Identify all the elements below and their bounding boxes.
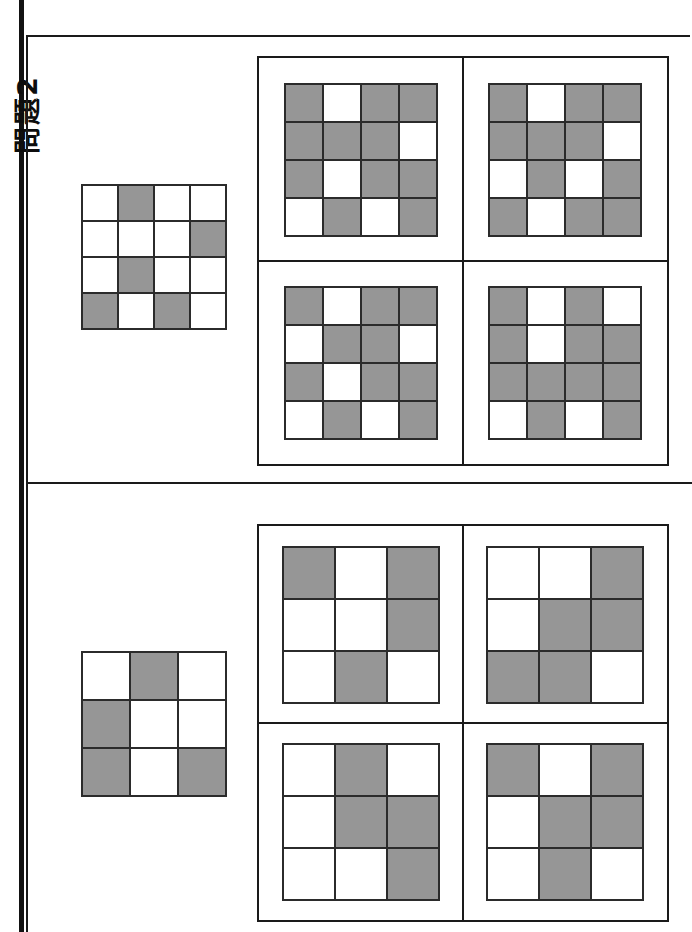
option-top-d-cell-r1c2 [528, 288, 564, 324]
reference-grid-bottom-cell-r1c1 [83, 653, 129, 699]
reference-grid-top-cell-r1c4 [191, 186, 225, 220]
option-bottom-d-cell-r3c1 [488, 849, 538, 899]
reference-grid-top-cell-r1c1 [83, 186, 117, 220]
option-bottom-a-cell-r2c1 [284, 600, 334, 650]
option-top-d[interactable] [488, 286, 642, 440]
option-top-d-cell-r3c4 [604, 364, 640, 400]
option-top-c-cell-r1c2 [324, 288, 360, 324]
option-top-c-cell[interactable] [258, 260, 464, 465]
reference-grid-top [81, 184, 227, 330]
option-top-a-cell-r4c1 [286, 199, 322, 235]
option-bottom-b-cell-r2c1 [488, 600, 538, 650]
reference-grid-top-cell-r2c1 [83, 222, 117, 256]
option-bottom-a-cell-r1c2 [336, 548, 386, 598]
reference-grid-top-cell-r1c3 [155, 186, 189, 220]
option-top-b-cell-r4c2 [528, 199, 564, 235]
option-bottom-c-cell-r3c3 [388, 849, 438, 899]
option-bottom-c-cell[interactable] [258, 722, 464, 921]
option-top-b-cell-r4c1 [490, 199, 526, 235]
option-top-c-cell-r1c1 [286, 288, 322, 324]
option-top-b-cell-r1c1 [490, 85, 526, 121]
option-top-a-cell-r1c1 [286, 85, 322, 121]
option-bottom-b[interactable] [486, 546, 644, 704]
reference-grid-top-cell-r1c2 [119, 186, 153, 220]
option-top-a-cell-r4c4 [400, 199, 436, 235]
option-top-b-cell-r3c3 [566, 161, 602, 197]
option-bottom-c-cell-r2c2 [336, 797, 386, 847]
option-top-c-cell-r4c1 [286, 402, 322, 438]
option-top-c-cell-r3c2 [324, 364, 360, 400]
option-bottom-b-cell-r2c3 [592, 600, 642, 650]
option-top-a-cell-r2c4 [400, 123, 436, 159]
option-top-d-cell-r4c1 [490, 402, 526, 438]
option-top-a-cell-r3c2 [324, 161, 360, 197]
option-top-b-cell-r4c4 [604, 199, 640, 235]
option-top-d-cell-r1c3 [566, 288, 602, 324]
option-top-c-cell-r1c3 [362, 288, 398, 324]
option-bottom-d-cell[interactable] [462, 722, 668, 921]
option-top-c-cell-r2c4 [400, 326, 436, 362]
option-bottom-b-cell-r3c2 [540, 652, 590, 702]
option-bottom-d-cell-r2c1 [488, 797, 538, 847]
option-bottom-a-cell-r2c2 [336, 600, 386, 650]
option-top-b-cell-r3c2 [528, 161, 564, 197]
option-top-d-cell[interactable] [462, 260, 668, 465]
option-bottom-d-cell-r3c3 [592, 849, 642, 899]
option-top-d-cell-r2c4 [604, 326, 640, 362]
option-top-a-cell-r1c4 [400, 85, 436, 121]
option-top-c-cell-r2c3 [362, 326, 398, 362]
option-bottom-a-cell-r1c1 [284, 548, 334, 598]
option-top-b-cell[interactable] [462, 57, 668, 262]
option-bottom-c-cell-r3c1 [284, 849, 334, 899]
option-top-c-cell-r4c2 [324, 402, 360, 438]
option-top-d-cell-r3c1 [490, 364, 526, 400]
option-bottom-b-cell-r3c3 [592, 652, 642, 702]
option-bottom-b-cell-r1c2 [540, 548, 590, 598]
option-bottom-c-cell-r2c3 [388, 797, 438, 847]
option-bottom-a-cell-r1c3 [388, 548, 438, 598]
option-top-a-cell-r3c3 [362, 161, 398, 197]
option-bottom-a-cell[interactable] [258, 525, 464, 724]
option-bottom-c-cell-r2c1 [284, 797, 334, 847]
option-top-b-cell-r2c3 [566, 123, 602, 159]
puzzle-section-top [26, 37, 692, 482]
reference-grid-bottom-cell-r2c3 [179, 701, 225, 747]
option-bottom-d-cell-r2c2 [540, 797, 590, 847]
option-top-d-cell-r4c4 [604, 402, 640, 438]
option-top-b[interactable] [488, 83, 642, 237]
option-top-d-cell-r1c4 [604, 288, 640, 324]
option-bottom-b-cell[interactable] [462, 525, 668, 724]
option-bottom-b-cell-r1c3 [592, 548, 642, 598]
option-top-d-cell-r4c2 [528, 402, 564, 438]
option-top-b-cell-r1c4 [604, 85, 640, 121]
option-top-c-cell-r4c4 [400, 402, 436, 438]
option-bottom-c-cell-r1c1 [284, 745, 334, 795]
option-top-a-cell-r2c2 [324, 123, 360, 159]
reference-grid-top-cell-r2c2 [119, 222, 153, 256]
option-top-b-cell-r1c3 [566, 85, 602, 121]
reference-grid-top-cell-r4c3 [155, 294, 189, 328]
option-top-c[interactable] [284, 286, 438, 440]
option-top-a-cell[interactable] [258, 57, 464, 262]
reference-grid-top-cell-r3c4 [191, 258, 225, 292]
reference-grid-top-cell-r2c4 [191, 222, 225, 256]
reference-grid-top-cell-r3c2 [119, 258, 153, 292]
option-top-d-cell-r3c3 [566, 364, 602, 400]
option-top-d-cell-r2c2 [528, 326, 564, 362]
option-top-d-cell-r1c1 [490, 288, 526, 324]
option-bottom-a[interactable] [282, 546, 440, 704]
reference-grid-top-cell-r2c3 [155, 222, 189, 256]
reference-grid-bottom [81, 651, 227, 797]
option-top-a[interactable] [284, 83, 438, 237]
option-top-d-cell-r4c3 [566, 402, 602, 438]
option-top-a-cell-r2c3 [362, 123, 398, 159]
option-top-b-cell-r4c3 [566, 199, 602, 235]
option-bottom-d-cell-r1c3 [592, 745, 642, 795]
reference-grid-top-cell-r4c2 [119, 294, 153, 328]
option-bottom-d[interactable] [486, 743, 644, 901]
option-top-c-cell-r4c3 [362, 402, 398, 438]
option-bottom-c[interactable] [282, 743, 440, 901]
option-top-d-cell-r2c3 [566, 326, 602, 362]
option-top-a-cell-r3c4 [400, 161, 436, 197]
option-bottom-c-cell-r1c2 [336, 745, 386, 795]
